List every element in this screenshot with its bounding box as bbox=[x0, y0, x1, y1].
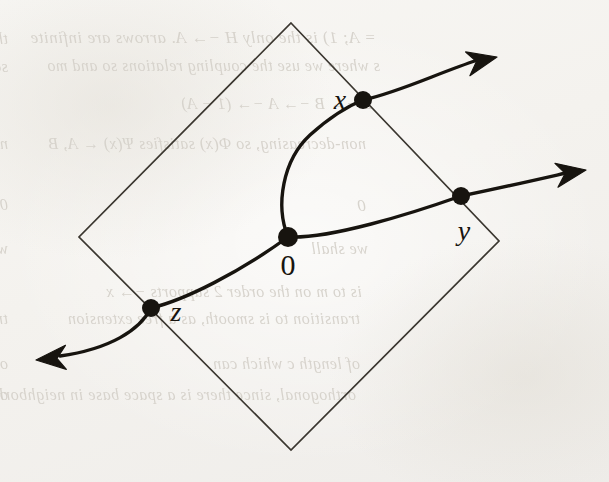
arrowhead-z bbox=[35, 345, 69, 373]
arrowhead-y bbox=[553, 157, 588, 187]
point-label-z: z bbox=[171, 298, 182, 326]
point-marker-0 bbox=[278, 227, 298, 247]
curve-z-arrow bbox=[60, 308, 151, 356]
point-label-0: 0 bbox=[281, 250, 296, 280]
point-marker-z bbox=[142, 299, 160, 317]
scanned-figure-page: = A; 1) is the only H −→ A. arrows are i… bbox=[0, 0, 609, 482]
curve-zero-to-x bbox=[282, 100, 363, 237]
curve-x-arrow bbox=[363, 60, 478, 100]
point-label-y: y bbox=[458, 217, 470, 245]
point-label-x: x bbox=[334, 86, 346, 114]
point-marker-y bbox=[452, 187, 470, 205]
point-marker-x bbox=[354, 91, 372, 109]
curve-y-arrow bbox=[461, 173, 566, 196]
curve-group bbox=[60, 60, 566, 356]
arrowhead-group bbox=[35, 44, 589, 372]
diagram-canvas bbox=[0, 0, 609, 482]
arrowhead-x bbox=[464, 44, 500, 75]
curve-zero-to-y bbox=[288, 196, 461, 237]
